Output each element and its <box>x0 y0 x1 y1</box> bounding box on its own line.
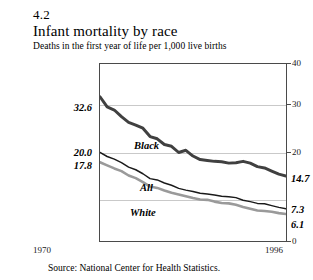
series-label-black: Black <box>134 140 159 151</box>
series-label-all: All <box>140 182 153 193</box>
series-line-black <box>100 97 286 176</box>
left-endpoint-white: 17.8 <box>30 160 92 171</box>
figure-subtitle: Deaths in the first year of life per 1,0… <box>33 41 226 52</box>
right-endpoint-all: 7.3 <box>291 204 304 215</box>
figure-container: 4.2 Infant mortality by race Deaths in t… <box>0 0 313 280</box>
y-tick-40: 40 <box>292 59 301 68</box>
source-note: Source: National Center for Health Stati… <box>48 263 220 274</box>
right-endpoint-black: 14.7 <box>291 173 309 184</box>
tick-mark-0 <box>287 241 291 242</box>
y-tick-20: 20 <box>292 148 301 157</box>
x-tick-start: 1970 <box>33 246 51 255</box>
figure-number: 4.2 <box>33 8 50 21</box>
series-label-white: White <box>130 207 156 218</box>
x-tick-end: 1996 <box>265 246 283 255</box>
tick-mark-20 <box>287 152 291 153</box>
tick-mark-40 <box>287 63 291 64</box>
page-title: Infant mortality by race <box>33 23 177 39</box>
y-tick-30: 30 <box>292 100 301 109</box>
series-line-white <box>100 162 286 214</box>
y-tick-0: 0 <box>292 237 297 246</box>
right-endpoint-white: 6.1 <box>291 219 304 230</box>
chart-plot-area <box>99 63 287 242</box>
chart-series-lines <box>100 64 286 241</box>
tick-mark-30 <box>287 104 291 105</box>
series-line-all <box>100 153 286 209</box>
left-endpoint-black: 32.6 <box>30 102 92 113</box>
left-endpoint-all: 20.0 <box>30 147 92 158</box>
